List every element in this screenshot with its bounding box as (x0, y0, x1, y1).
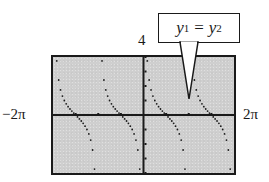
y-tick (145, 172, 147, 173)
x-tick (97, 113, 99, 115)
plot-point (84, 125, 86, 127)
plot-point (192, 60, 194, 62)
plot-point (161, 110, 163, 112)
plot-point (80, 120, 82, 122)
x-tick (188, 113, 190, 115)
plot-point (194, 79, 196, 81)
y-tick (145, 158, 147, 160)
plot-area (53, 57, 234, 173)
plot-point (180, 139, 182, 141)
callout-sub2: 2 (216, 22, 222, 34)
plot-point (120, 114, 122, 116)
plot-point (195, 89, 197, 91)
plot-point (224, 133, 226, 135)
plot-point (111, 103, 113, 105)
plot-point (210, 114, 212, 116)
y-tick (145, 100, 147, 102)
plot-point (160, 108, 162, 110)
plot-point (222, 129, 224, 131)
plot-point (154, 100, 156, 102)
plot-point (101, 60, 103, 62)
plot-point (56, 60, 58, 62)
plot-point (227, 149, 229, 151)
callout-sub1: 1 (184, 22, 190, 34)
plot-point (63, 100, 65, 102)
callout-var2: y (209, 18, 217, 38)
plot-point (135, 139, 137, 141)
y-tick (145, 71, 147, 73)
plot-point (73, 112, 75, 114)
plot-point (173, 122, 175, 124)
axis-label-xmax: 2π (243, 107, 258, 122)
calculator-screen (51, 55, 236, 175)
plot-point (126, 120, 128, 122)
plot-point (175, 125, 177, 127)
plot-point (107, 95, 109, 97)
y-tick (145, 57, 147, 58)
plot-point (156, 103, 158, 105)
plot-point (122, 116, 124, 118)
plot-point (165, 114, 167, 116)
plot-point (71, 110, 73, 112)
axis-label-xmin: −2π (2, 107, 26, 122)
plot-point (90, 139, 92, 141)
plot-point (152, 95, 154, 97)
plot-point (112, 106, 114, 108)
plot-point (184, 168, 186, 170)
plot-point (178, 133, 180, 135)
plot-point (203, 106, 205, 108)
plot-point (205, 108, 207, 110)
plot-point (86, 129, 88, 131)
plot-point (169, 118, 171, 120)
plot-point (118, 112, 120, 114)
plot-point (148, 79, 150, 81)
plot-point (229, 168, 231, 170)
plot-point (124, 118, 126, 120)
plot-point (137, 149, 139, 151)
plot-point (182, 149, 184, 151)
plot-point (92, 149, 94, 151)
plot-point (103, 79, 105, 81)
plot-point (128, 122, 130, 124)
plot-point (114, 108, 116, 110)
plot-point (146, 60, 148, 62)
y-tick (145, 85, 147, 87)
plot-point (88, 133, 90, 135)
plot-point (201, 103, 203, 105)
plot-point (207, 110, 209, 112)
plot-point (77, 116, 79, 118)
plot-point (167, 116, 169, 118)
plot-point (133, 133, 135, 135)
callout-equals: = (194, 18, 204, 38)
callout-var1: y (176, 18, 184, 38)
axis-label-ymax: 4 (138, 33, 146, 48)
y-tick (145, 143, 147, 145)
plot-point (116, 110, 118, 112)
plot-point (218, 122, 220, 124)
plot-point (214, 118, 216, 120)
plot-point (94, 168, 96, 170)
plot-point (209, 112, 211, 114)
plot-point (131, 129, 133, 131)
plot-point (139, 168, 141, 170)
plot-point (67, 106, 69, 108)
plot-point (177, 129, 179, 131)
plot-point (109, 100, 111, 102)
plot-point (69, 108, 71, 110)
plot-point (58, 79, 60, 81)
plot-point (197, 95, 199, 97)
plot-point (60, 89, 62, 91)
plot-point (129, 125, 131, 127)
plot-point (216, 120, 218, 122)
plot-point (150, 89, 152, 91)
plot-point (212, 116, 214, 118)
plot-point (158, 106, 160, 108)
plot-point (62, 95, 64, 97)
plot-point (163, 112, 165, 114)
plot-point (220, 125, 222, 127)
plot-point (226, 139, 228, 141)
y-tick (145, 129, 147, 131)
plot-point (105, 89, 107, 91)
plot-point (199, 100, 201, 102)
plot-point (78, 118, 80, 120)
